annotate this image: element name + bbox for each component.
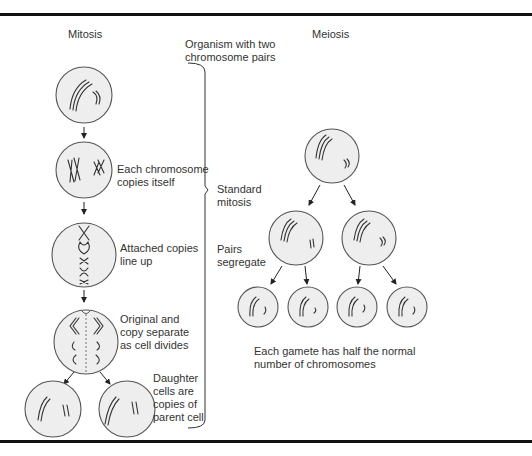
meiosis-cell-left — [269, 211, 323, 265]
meiosis-cell-right — [342, 211, 396, 265]
organism-label: Organism with two chromosome pairs — [185, 38, 275, 64]
pairs-segregate-label: Pairs segregate — [217, 243, 266, 269]
arrow-down-left-icon — [309, 185, 320, 205]
arrow-down-right-icon — [100, 372, 110, 384]
arrow-down-left-icon — [271, 266, 282, 284]
arrow-down-icon — [305, 266, 307, 284]
cell-division-diagram — [0, 0, 532, 456]
arrow-down-right-icon — [344, 185, 355, 205]
step-label-daughter: Daughter cells are copies of parent cell — [153, 372, 204, 424]
step-label-separate: Original and copy separate as cell divid… — [120, 313, 189, 352]
meiosis-heading: Meiosis — [312, 28, 349, 41]
gamete-cell-2 — [288, 287, 328, 327]
step-label-replicate: Each chromosome copies itself — [117, 163, 209, 189]
arrow-down-left-icon — [64, 372, 74, 384]
standard-mitosis-label: Standard mitosis — [217, 183, 262, 209]
gamete-note: Each gamete has half the normal number o… — [254, 345, 415, 371]
arrow-down-right-icon — [383, 266, 396, 284]
mitosis-daughter-cell-left — [25, 381, 81, 437]
gamete-cell-4 — [387, 287, 427, 327]
mitosis-parent-cell — [56, 67, 112, 123]
mitosis-metaphase-cell — [52, 223, 116, 287]
mitosis-dividing-cell — [54, 310, 118, 374]
mitosis-daughter-cell-right — [99, 381, 155, 437]
step-label-line-up: Attached copies line up — [120, 242, 198, 268]
mitosis-replicated-cell — [56, 142, 112, 198]
mitosis-heading: Mitosis — [68, 28, 102, 41]
gamete-cell-3 — [337, 287, 377, 327]
arrow-down-icon — [358, 266, 360, 284]
gamete-cell-1 — [238, 287, 278, 327]
meiosis-parent-cell — [305, 129, 359, 183]
